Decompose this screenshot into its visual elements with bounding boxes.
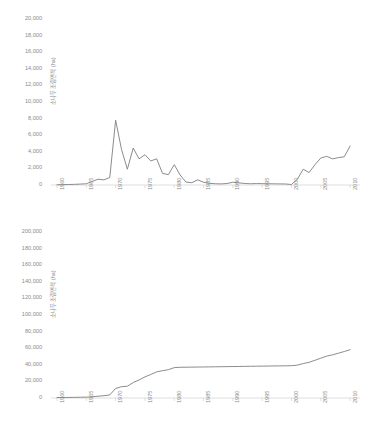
x-axis-tick-label: 1990 <box>235 178 241 190</box>
y-axis-tick-label: 2,000 <box>28 165 42 171</box>
y-axis-tick-label: 60,000 <box>25 345 42 351</box>
x-axis-tick-label: 1960 <box>60 178 66 190</box>
y-axis-tick-label: 10,000 <box>25 99 42 105</box>
y-axis-tick-label: 18,000 <box>25 33 42 39</box>
x-axis-tick-label: 1975 <box>148 391 154 403</box>
x-axis-tick-label: 2005 <box>323 178 329 190</box>
x-axis-tick-label: 2000 <box>294 178 300 190</box>
y-axis-tick-label: 6,000 <box>28 132 42 138</box>
annual-plot-area <box>57 19 356 185</box>
x-axis-tick-label: 1985 <box>206 391 212 403</box>
x-axis-tick-label: 1985 <box>206 178 212 190</box>
y-axis-tick-label: 16,000 <box>25 49 42 55</box>
y-axis-tick-label: 140,000 <box>22 279 42 285</box>
x-axis-tick-label: 2005 <box>323 391 329 403</box>
annual-chart-panel: 02,0004,0006,0008,00010,00012,00014,0001… <box>0 0 373 213</box>
x-axis-tick-label: 1995 <box>265 391 271 403</box>
y-axis-tick-label: 200,000 <box>22 229 42 235</box>
y-axis-tick-label: 12,000 <box>25 82 42 88</box>
x-axis-tick-label: 2010 <box>353 391 359 403</box>
x-axis-tick-label: 1970 <box>118 391 124 403</box>
y-axis-tick-label: 0 <box>39 182 42 188</box>
y-axis-tick-label: 80,000 <box>25 329 42 335</box>
cumulative-y-axis-ticks: 020,00040,00060,00080,000100,000120,0001… <box>4 213 42 426</box>
x-axis-tick-label: 1965 <box>89 391 95 403</box>
afforestation-chart-figure: 02,0004,0006,0008,00010,00012,00014,0001… <box>0 0 373 426</box>
y-axis-tick-label: 0 <box>39 395 42 401</box>
y-axis-tick-label: 4,000 <box>28 149 42 155</box>
x-axis-tick-label: 1975 <box>148 178 154 190</box>
x-axis-tick-label: 2000 <box>294 391 300 403</box>
x-axis-tick-label: 1990 <box>235 391 241 403</box>
annual-plot-svg <box>57 19 356 185</box>
y-axis-tick-label: 180,000 <box>22 246 42 252</box>
x-axis-tick-label: 1995 <box>265 178 271 190</box>
y-axis-tick-label: 8,000 <box>28 116 42 122</box>
x-axis-tick-label: 1970 <box>118 178 124 190</box>
y-axis-tick-label: 14,000 <box>25 66 42 72</box>
y-axis-tick-label: 100,000 <box>22 312 42 318</box>
annual-y-axis-ticks: 02,0004,0006,0008,00010,00012,00014,0001… <box>4 0 42 213</box>
y-axis-tick-label: 120,000 <box>22 295 42 301</box>
x-axis-tick-label: 2010 <box>353 178 359 190</box>
cumulative-chart-panel: 020,00040,00060,00080,000100,000120,0001… <box>0 213 373 426</box>
cumulative-plot-svg <box>57 232 356 398</box>
y-axis-tick-label: 20,000 <box>25 16 42 22</box>
y-axis-tick-label: 160,000 <box>22 262 42 268</box>
y-axis-tick-label: 20,000 <box>25 378 42 384</box>
x-axis-tick-label: 1980 <box>177 178 183 190</box>
cumulative-plot-area <box>57 232 356 398</box>
x-axis-tick-label: 1980 <box>177 391 183 403</box>
cumulative-series-line <box>57 350 350 398</box>
cumulative-y-axis-title: 소나무 조림면적 (ha) <box>50 270 56 318</box>
annual-y-axis-title: 소나무 조림면적 (ha) <box>50 57 56 105</box>
y-axis-tick-label: 40,000 <box>25 362 42 368</box>
annual-series-line <box>57 120 350 184</box>
x-axis-tick-label: 1965 <box>89 178 95 190</box>
x-axis-tick-label: 1960 <box>60 391 66 403</box>
